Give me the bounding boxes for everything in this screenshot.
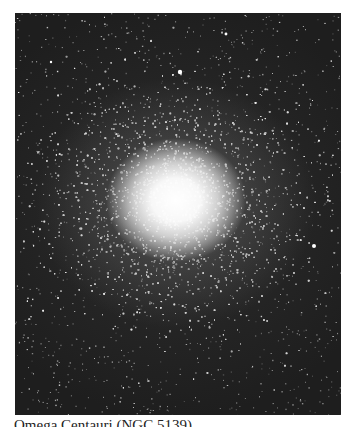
figure-caption: Omega Centauri (NGC 5139) bbox=[14, 416, 192, 427]
bright-star bbox=[225, 33, 228, 36]
bright-star bbox=[50, 61, 52, 63]
cluster-photograph bbox=[15, 13, 341, 415]
bright-stars bbox=[15, 13, 341, 415]
bright-star bbox=[178, 70, 182, 74]
bright-star bbox=[312, 244, 316, 248]
